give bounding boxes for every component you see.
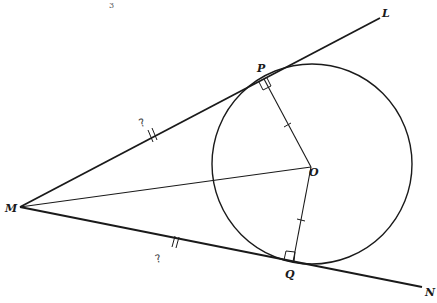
label-M: M <box>4 202 18 215</box>
handwritten-mark-MP: ? <box>137 116 147 130</box>
segment-MO <box>20 167 311 207</box>
tangent-line-MN <box>20 207 422 287</box>
radius-OP <box>264 79 311 167</box>
handwritten-mark-MQ: ? <box>154 252 163 266</box>
radius-OQ <box>293 167 311 262</box>
top-mark: 3 <box>109 1 114 10</box>
tangent-circle-diagram: 3 ? ? M P L O Q N <box>0 0 437 303</box>
label-O: O <box>309 166 319 179</box>
label-Q: Q <box>285 268 295 281</box>
tangent-line-ML <box>20 18 380 207</box>
label-L: L <box>381 7 390 20</box>
label-N: N <box>424 286 436 299</box>
circle <box>212 64 412 264</box>
label-P: P <box>256 62 266 75</box>
